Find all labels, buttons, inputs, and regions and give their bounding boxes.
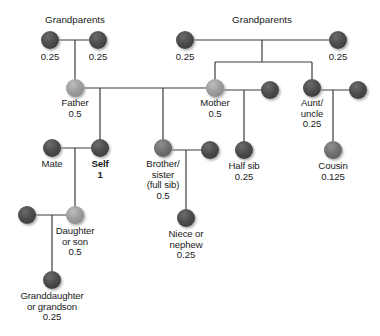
pedigree-diagram: 0.250.250.250.25Father 0.5Mother 0.5Aunt… (0, 0, 380, 336)
pedigree-node-daughter-son[interactable] (66, 206, 84, 224)
pedigree-node-mate[interactable] (43, 139, 61, 157)
pedigree-node-granddaughter-grandson[interactable] (43, 271, 61, 289)
pedigree-label-grandparent-maternal-1: 0.25 (176, 52, 194, 63)
pedigree-label-grandparent-paternal-1: 0.25 (41, 52, 59, 63)
pedigree-label-granddaughter-grandson: Granddaughter or grandson 0.25 (20, 291, 83, 323)
pedigree-node-grandparent-maternal-2[interactable] (329, 31, 347, 49)
pedigree-label-half-sib: Half sib 0.25 (228, 161, 259, 182)
pedigree-node-self[interactable] (91, 139, 109, 157)
pedigree-label-father: Father 0.5 (61, 98, 88, 119)
pedigree-node-mother-mate[interactable] (261, 81, 279, 99)
pedigree-label-self-coef: 1 (97, 170, 102, 181)
pedigree-node-mother[interactable] (206, 79, 224, 97)
pedigree-label-daughter-son: Daughter or son 0.5 (56, 226, 95, 258)
pedigree-node-half-sib[interactable] (235, 141, 253, 159)
pedigree-header-grandparents-right: Grandparents (232, 14, 292, 25)
pedigree-node-cousin[interactable] (324, 141, 342, 159)
pedigree-label-brother-sister: Brother/ sister (full sib) 0.5 (146, 159, 179, 201)
pedigree-node-grandparent-paternal-2[interactable] (89, 31, 107, 49)
pedigree-label-niece-nephew: Niece or nephew 0.25 (169, 229, 204, 261)
pedigree-label-aunt-uncle: Aunt/ uncle 0.25 (301, 98, 323, 130)
pedigree-label-mate: Mate (42, 159, 63, 170)
pedigree-node-brother-sister[interactable] (154, 139, 172, 157)
pedigree-label-self: Self (91, 159, 108, 170)
pedigree-label-cousin: Cousin 0.125 (318, 161, 347, 182)
pedigree-label-grandparent-maternal-2: 0.25 (329, 52, 347, 63)
pedigree-node-brother-sister-mate[interactable] (201, 141, 219, 159)
pedigree-label-grandparent-paternal-2: 0.25 (89, 52, 107, 63)
pedigree-node-aunt-uncle[interactable] (303, 79, 321, 97)
pedigree-node-grandparent-paternal-1[interactable] (41, 31, 59, 49)
pedigree-node-aunt-uncle-mate[interactable] (349, 81, 367, 99)
pedigree-node-father[interactable] (66, 79, 84, 97)
pedigree-node-daughter-son-mate[interactable] (18, 206, 36, 224)
pedigree-node-niece-nephew[interactable] (177, 209, 195, 227)
pedigree-node-grandparent-maternal-1[interactable] (176, 31, 194, 49)
pedigree-header-grandparents-left: Grandparents (45, 14, 105, 25)
pedigree-label-mother: Mother 0.5 (200, 98, 229, 119)
